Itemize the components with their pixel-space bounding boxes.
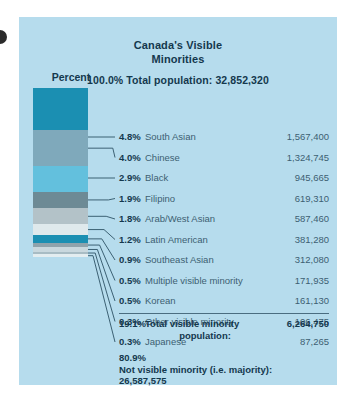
total-row-label: Total visible minority population: — [145, 318, 265, 341]
category-row: 2.9%Black945,665 — [119, 172, 329, 186]
row-percent: 0.9% — [119, 254, 141, 265]
majority-percent: 80.9% — [119, 352, 334, 364]
row-percent: 4.8% — [119, 131, 141, 142]
infographic-panel: Canada's Visible Minorities 100.0% Total… — [19, 17, 337, 385]
row-percent: 0.5% — [119, 295, 141, 306]
row-label: Korean — [145, 295, 176, 306]
majority-count: 26,587,575 — [119, 375, 334, 387]
row-percent: 1.8% — [119, 213, 141, 224]
category-row: 1.2%Latin American381,280 — [119, 234, 329, 248]
totals-divider — [119, 313, 329, 314]
row-percent: 2.9% — [119, 172, 141, 183]
total-row-label-line2: population: — [145, 330, 265, 342]
row-value: 171,935 — [295, 275, 329, 286]
row-label: Arab/West Asian — [145, 213, 215, 224]
row-percent: 1.2% — [119, 234, 141, 245]
row-value: 87,265 — [300, 336, 329, 347]
row-percent: 4.0% — [119, 152, 141, 163]
row-label: Multiple visible minority — [145, 275, 243, 286]
category-row: 0.5%Multiple visible minority171,935 — [119, 275, 329, 289]
category-row: 4.8%South Asian1,567,400 — [119, 131, 329, 145]
majority-footer: 80.9% Not visible minority (i.e. majorit… — [119, 352, 334, 387]
row-label: South Asian — [145, 131, 196, 142]
row-label: Filipino — [145, 193, 175, 204]
row-value: 587,460 — [295, 213, 329, 224]
total-row-label-line1: Total visible minority — [145, 318, 239, 329]
row-label: Latin American — [145, 234, 208, 245]
category-row: 0.9%Southeast Asian312,080 — [119, 254, 329, 268]
category-row: 0.5%Korean161,130 — [119, 295, 329, 309]
row-label: Southeast Asian — [145, 254, 214, 265]
row-value: 161,130 — [295, 295, 329, 306]
row-percent: 0.3% — [119, 336, 141, 347]
total-row-value: 6,264,750 — [287, 318, 329, 329]
row-value: 619,310 — [295, 193, 329, 204]
page-edge-dot-decoration — [0, 30, 7, 44]
row-value: 1,324,745 — [287, 152, 329, 163]
row-label: Chinese — [145, 152, 180, 163]
row-value: 945,665 — [295, 172, 329, 183]
row-value: 381,280 — [295, 234, 329, 245]
row-label: Black — [145, 172, 168, 183]
majority-label: Not visible minority (i.e. majority): — [119, 364, 334, 376]
row-percent: 1.9% — [119, 193, 141, 204]
category-row: 1.9%Filipino619,310 — [119, 193, 329, 207]
total-row-percent: 19.1% — [119, 318, 146, 329]
row-value: 1,567,400 — [287, 131, 329, 142]
row-value: 312,080 — [295, 254, 329, 265]
category-row: 4.0%Chinese1,324,745 — [119, 152, 329, 166]
category-row: 1.8%Arab/West Asian587,460 — [119, 213, 329, 227]
row-percent: 0.5% — [119, 275, 141, 286]
